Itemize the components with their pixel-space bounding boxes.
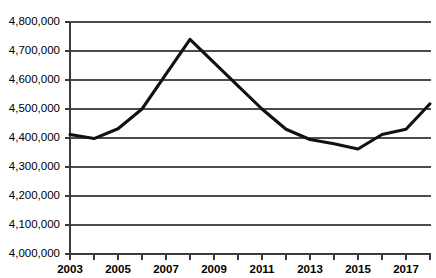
y-axis-tick-label: 4,500,000 (9, 102, 60, 114)
y-axis-tick-label: 4,100,000 (9, 218, 60, 230)
x-axis-tick-label: 2003 (57, 263, 83, 275)
y-axis-tick-label: 4,700,000 (9, 44, 60, 56)
line-chart: 4,800,0004,700,0004,600,0004,500,0004,40… (0, 0, 436, 278)
x-axis-tick-label: 2013 (297, 263, 323, 275)
chart-canvas: 4,800,0004,700,0004,600,0004,500,0004,40… (0, 0, 436, 278)
y-axis-tick-label: 4,800,000 (9, 15, 60, 27)
x-axis-tick-label: 2009 (201, 263, 227, 275)
x-axis-tick-label: 2011 (250, 263, 276, 275)
x-axis-tick-label: 2007 (153, 263, 179, 275)
x-axis-tick-label: 2015 (345, 263, 371, 275)
y-axis-tick-labels: 4,800,0004,700,0004,600,0004,500,0004,40… (9, 15, 60, 259)
x-axis-tick-label: 2017 (393, 263, 419, 275)
x-axis-tick-label: 2005 (105, 263, 131, 275)
chart-background (0, 0, 436, 278)
y-axis-tick-label: 4,200,000 (9, 189, 60, 201)
y-axis-tick-label: 4,000,000 (9, 247, 60, 259)
y-axis-tick-label: 4,600,000 (9, 73, 60, 85)
y-axis-tick-label: 4,300,000 (9, 160, 60, 172)
y-axis-tick-label: 4,400,000 (9, 131, 60, 143)
